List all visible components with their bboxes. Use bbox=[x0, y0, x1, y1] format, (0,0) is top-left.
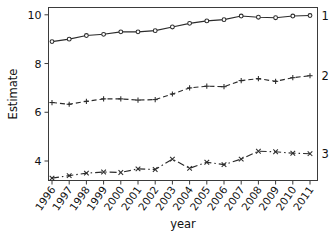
x-axis-tick-labels: 1996199719981999200020012002200320042005… bbox=[32, 184, 315, 213]
series-marker-1 bbox=[153, 29, 157, 33]
series-marker-2 bbox=[307, 73, 312, 78]
series-marker-1 bbox=[136, 30, 140, 34]
series-marker-1 bbox=[85, 34, 89, 38]
series-line-3 bbox=[52, 151, 310, 178]
y-tick-label: 4 bbox=[35, 155, 42, 168]
series-marker-1 bbox=[257, 15, 261, 19]
series-label-3: 3 bbox=[322, 147, 329, 161]
series-marker-2 bbox=[221, 84, 226, 89]
y-axis-title: Estimate bbox=[6, 69, 20, 120]
series-marker-2 bbox=[187, 85, 192, 90]
series-label-1: 1 bbox=[322, 9, 329, 23]
series-marker-2 bbox=[84, 99, 89, 104]
series-marker-1 bbox=[171, 25, 175, 29]
series-marker-3 bbox=[119, 170, 124, 175]
data-series-group bbox=[49, 14, 312, 181]
series-marker-2 bbox=[49, 100, 54, 105]
series-marker-2 bbox=[273, 79, 278, 84]
series-marker-1 bbox=[119, 30, 123, 34]
series-marker-1 bbox=[291, 14, 295, 18]
series-marker-2 bbox=[239, 78, 244, 83]
series-marker-1 bbox=[222, 18, 226, 22]
series-marker-2 bbox=[67, 102, 72, 107]
y-tick-label: 8 bbox=[35, 58, 42, 71]
series-end-labels: 123 bbox=[322, 9, 329, 161]
y-axis-ticks: 46810 bbox=[28, 9, 49, 168]
series-marker-2 bbox=[204, 84, 209, 89]
series-marker-1 bbox=[274, 16, 278, 20]
series-marker-1 bbox=[188, 21, 192, 25]
series-marker-2 bbox=[118, 96, 123, 101]
line-chart: 46810 123 199619971998199920002001200220… bbox=[0, 0, 334, 240]
series-marker-1 bbox=[67, 37, 71, 41]
series-marker-1 bbox=[239, 14, 243, 18]
series-line-2 bbox=[52, 76, 310, 105]
series-label-2: 2 bbox=[322, 69, 329, 83]
series-marker-1 bbox=[205, 19, 209, 23]
plot-frame bbox=[49, 8, 318, 181]
series-marker-2 bbox=[153, 97, 158, 102]
series-marker-2 bbox=[290, 75, 295, 80]
series-marker-2 bbox=[256, 76, 261, 81]
x-axis-title: year bbox=[170, 217, 196, 231]
series-marker-2 bbox=[135, 97, 140, 102]
y-tick-label: 6 bbox=[35, 106, 42, 119]
series-marker-1 bbox=[102, 32, 106, 36]
series-marker-1 bbox=[308, 14, 312, 18]
series-marker-1 bbox=[50, 40, 54, 44]
series-marker-3 bbox=[239, 157, 244, 162]
series-marker-2 bbox=[170, 91, 175, 96]
series-line-1 bbox=[52, 16, 310, 42]
series-marker-2 bbox=[101, 96, 106, 101]
y-tick-label: 10 bbox=[28, 9, 42, 22]
series-marker-3 bbox=[170, 157, 175, 162]
chart-figure: 46810 123 199619971998199920002001200220… bbox=[0, 0, 334, 240]
